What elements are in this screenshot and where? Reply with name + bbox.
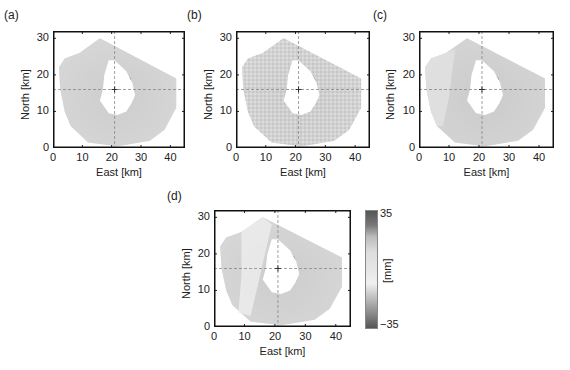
x-axis-label: East [km] (275, 166, 331, 178)
x-tick-label: 20 (473, 151, 485, 163)
x-tick-label: 10 (443, 151, 455, 163)
deformation-map-c (419, 31, 554, 148)
y-axis-label: North [km] (384, 69, 396, 120)
y-tick-label: 10 (218, 104, 232, 116)
y-axis-label: North [km] (202, 69, 214, 120)
y-tick-label: 30 (401, 31, 415, 43)
y-tick-label: 20 (35, 68, 49, 80)
y-tick-label: 10 (35, 104, 49, 116)
y-tick-label: 0 (218, 141, 232, 153)
panel-label-c: (c) (373, 8, 387, 22)
plot-area-c (419, 31, 554, 148)
deformation-map-b (236, 31, 370, 148)
x-tick-label: 20 (106, 151, 118, 163)
colorbar-unit-label: [mm] (381, 259, 393, 283)
colorbar (365, 210, 378, 329)
x-tick-label: 30 (503, 151, 515, 163)
plot-area-a (53, 31, 185, 148)
y-axis-label: North [km] (19, 69, 31, 120)
y-tick-label: 30 (196, 210, 210, 222)
y-tick-label: 30 (218, 31, 232, 43)
deformation-map-a (53, 31, 185, 148)
y-tick-label: 30 (35, 31, 49, 43)
x-tick-label: 30 (299, 330, 311, 342)
colorbar-max-label: 35 (380, 207, 392, 219)
deformation-map-d (214, 210, 351, 327)
x-tick-label: 10 (238, 330, 250, 342)
panel-label-b: (b) (187, 8, 202, 22)
y-tick-label: 10 (401, 104, 415, 116)
x-tick-label: 10 (76, 151, 88, 163)
x-axis-label: East [km] (91, 166, 147, 178)
x-axis-label: East [km] (255, 345, 311, 357)
x-tick-label: 40 (330, 330, 342, 342)
x-tick-label: 40 (164, 151, 176, 163)
y-tick-label: 0 (196, 320, 210, 332)
x-tick-label: 30 (319, 151, 331, 163)
x-axis-label: East [km] (459, 166, 515, 178)
panel-label-d: (d) (167, 189, 182, 203)
plot-area-d (214, 210, 351, 327)
x-tick-label: 20 (290, 151, 302, 163)
y-axis-label: North [km] (180, 248, 192, 299)
x-tick-label: 40 (349, 151, 361, 163)
y-tick-label: 10 (196, 283, 210, 295)
x-tick-label: 40 (533, 151, 545, 163)
y-tick-label: 20 (196, 247, 210, 259)
y-tick-label: 20 (401, 68, 415, 80)
colorbar-min-label: −35 (380, 318, 399, 330)
x-tick-label: 20 (269, 330, 281, 342)
y-tick-label: 0 (35, 141, 49, 153)
y-tick-label: 20 (218, 68, 232, 80)
y-tick-label: 0 (401, 141, 415, 153)
x-tick-label: 30 (135, 151, 147, 163)
plot-area-b (236, 31, 370, 148)
x-tick-label: 10 (260, 151, 272, 163)
panel-label-a: (a) (4, 8, 19, 22)
